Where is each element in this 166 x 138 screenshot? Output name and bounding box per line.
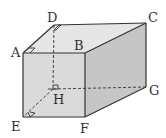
label-A: A (10, 45, 21, 60)
label-B: B (74, 38, 84, 53)
cuboid-diagram: A B C D E F G H (0, 0, 166, 138)
label-E: E (11, 119, 21, 134)
label-F: F (80, 121, 89, 136)
label-G: G (149, 83, 159, 98)
label-C: C (148, 10, 158, 25)
label-H: H (53, 92, 64, 107)
label-D: D (47, 10, 57, 25)
